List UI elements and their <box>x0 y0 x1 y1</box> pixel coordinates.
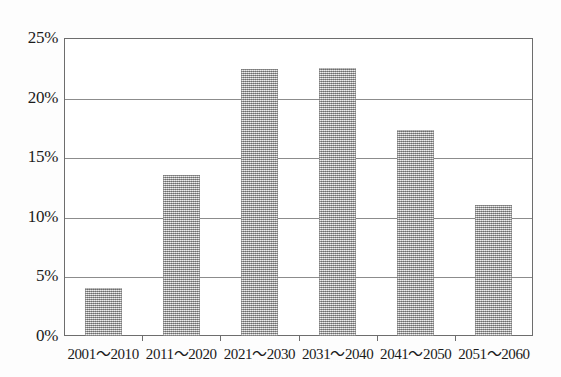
x-axis-tick <box>142 336 143 341</box>
y-axis-tick-label: 20% <box>2 88 58 108</box>
x-axis-tick-label: 2031〜2040 <box>302 342 373 363</box>
x-axis-tick-label: 2051〜2060 <box>458 342 529 363</box>
y-axis-tick-label: 15% <box>2 147 58 167</box>
x-axis-tick <box>455 336 456 341</box>
gridline <box>65 158 532 159</box>
gridline <box>65 218 532 219</box>
x-axis: 2001〜20102011〜20202021〜20302031〜20402041… <box>64 342 533 368</box>
x-axis-tick-label: 2021〜2030 <box>224 342 295 363</box>
y-axis: 0%5%10%15%20%25% <box>0 38 58 336</box>
x-axis-tick-label: 2001〜2010 <box>67 342 138 363</box>
y-axis-tick-label: 25% <box>2 28 58 48</box>
gridline <box>65 99 532 100</box>
bar-chart: 0%5%10%15%20%25% 2001〜20102011〜20202021〜… <box>0 0 561 377</box>
gridline <box>65 277 532 278</box>
x-axis-tick-label: 2011〜2020 <box>146 342 217 363</box>
y-axis-tick-label: 0% <box>2 326 58 346</box>
x-axis-tick <box>377 336 378 341</box>
y-axis-tick-label: 10% <box>2 207 58 227</box>
x-axis-tick <box>299 336 300 341</box>
x-axis-tick-label: 2041〜2050 <box>380 342 451 363</box>
y-axis-tick-label: 5% <box>2 266 58 286</box>
plot-area <box>64 38 533 336</box>
x-axis-tick <box>220 336 221 341</box>
